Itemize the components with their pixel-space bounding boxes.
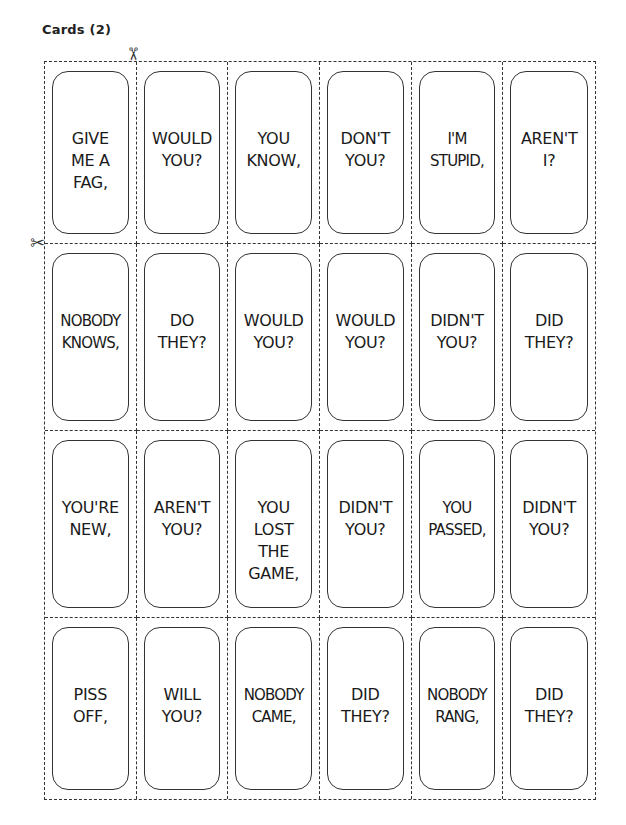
card-cell: DID THEY? (503, 618, 595, 799)
card-cell: DIDN'T YOU? (503, 431, 595, 618)
card[interactable]: DID THEY? (510, 627, 588, 790)
card-text: DID THEY? (525, 310, 574, 354)
card[interactable]: YOU PASSED, (419, 440, 496, 608)
card[interactable]: PISS OFF, (52, 627, 129, 790)
card-cell: WOULD YOU? (320, 244, 412, 431)
card-text: DON'T YOU? (341, 128, 391, 172)
card-cell: DID THEY? (320, 618, 412, 799)
card[interactable]: AREN'T I? (510, 71, 588, 234)
card[interactable]: YOU LOST THE GAME, (235, 440, 312, 608)
card-cell: WILL YOU? (137, 618, 229, 799)
card[interactable]: NOBODY KNOWS, (52, 253, 129, 421)
card-cell: AREN'T YOU? (137, 431, 229, 618)
card-text: DID THEY? (341, 684, 390, 728)
card-cell: DIDN'T YOU? (412, 244, 504, 431)
card[interactable]: AREN'T YOU? (144, 440, 221, 608)
card-cell: DO THEY? (137, 244, 229, 431)
scissors-icon: ✂ (124, 46, 142, 61)
card[interactable]: DO THEY? (144, 253, 221, 421)
card-text: AREN'T I? (521, 128, 578, 172)
card-text: WOULD YOU? (244, 310, 304, 354)
card[interactable]: DIDN'T YOU? (327, 440, 404, 608)
card-grid: GIVE ME A FAG, WOULD YOU? YOU KNOW, DON'… (45, 62, 595, 799)
card[interactable]: YOU KNOW, (235, 71, 312, 234)
card-sheet: GIVE ME A FAG, WOULD YOU? YOU KNOW, DON'… (44, 61, 596, 800)
card-text: DID THEY? (525, 684, 574, 728)
card-text: GIVE ME A FAG, (71, 128, 110, 194)
card-text: NOBODY CAME, (244, 684, 304, 728)
card[interactable]: DIDN'T YOU? (510, 440, 588, 608)
card[interactable]: WOULD YOU? (327, 253, 404, 421)
card-cell: GIVE ME A FAG, (45, 62, 137, 244)
card[interactable]: DIDN'T YOU? (419, 253, 496, 421)
card-text: YOU'RE NEW, (62, 497, 119, 541)
card-cell: YOU LOST THE GAME, (228, 431, 320, 618)
card-cell: DIDN'T YOU? (320, 431, 412, 618)
card-text: AREN'T YOU? (154, 497, 211, 541)
card-cell: I'M STUPID, (412, 62, 504, 244)
card-cell: WOULD YOU? (137, 62, 229, 244)
card-cell: WOULD YOU? (228, 244, 320, 431)
card[interactable]: WILL YOU? (144, 627, 221, 790)
card-text: YOU PASSED, (428, 497, 486, 541)
card-text: DIDN'T YOU? (430, 310, 484, 354)
card[interactable]: WOULD YOU? (144, 71, 221, 234)
card[interactable]: YOU'RE NEW, (52, 440, 129, 608)
card-text: NOBODY KNOWS, (60, 310, 120, 354)
card-cell: AREN'T I? (503, 62, 595, 244)
card-text: WOULD YOU? (152, 128, 212, 172)
card-cell: YOU'RE NEW, (45, 431, 137, 618)
card-text: DO THEY? (158, 310, 207, 354)
card-cell: YOU KNOW, (228, 62, 320, 244)
card[interactable]: NOBODY CAME, (235, 627, 312, 790)
card-cell: NOBODY RANG, (412, 618, 504, 799)
card-cell: NOBODY KNOWS, (45, 244, 137, 431)
card-text: DIDN'T YOU? (338, 497, 392, 541)
card-cell: DON'T YOU? (320, 62, 412, 244)
card[interactable]: DON'T YOU? (327, 71, 404, 234)
card-cell: DID THEY? (503, 244, 595, 431)
card[interactable]: DID THEY? (327, 627, 404, 790)
page-title: Cards (2) (42, 22, 111, 37)
card-text: DIDN'T YOU? (522, 497, 576, 541)
card[interactable]: DID THEY? (510, 253, 588, 421)
card-cell: YOU PASSED, (412, 431, 504, 618)
card-cell: PISS OFF, (45, 618, 137, 799)
card-text: I'M STUPID, (430, 128, 484, 172)
card[interactable]: I'M STUPID, (419, 71, 496, 234)
card[interactable]: NOBODY RANG, (419, 627, 496, 790)
card-text: YOU KNOW, (246, 128, 300, 172)
card-text: PISS OFF, (73, 684, 108, 728)
card[interactable]: GIVE ME A FAG, (52, 71, 129, 234)
card-text: WOULD YOU? (335, 310, 395, 354)
card-text: NOBODY RANG, (427, 684, 487, 728)
card[interactable]: WOULD YOU? (235, 253, 312, 421)
card-cell: NOBODY CAME, (228, 618, 320, 799)
card-text: WILL YOU? (162, 684, 203, 728)
scissors-icon: ✂ (30, 234, 45, 252)
card-text: YOU LOST THE GAME, (248, 497, 299, 585)
